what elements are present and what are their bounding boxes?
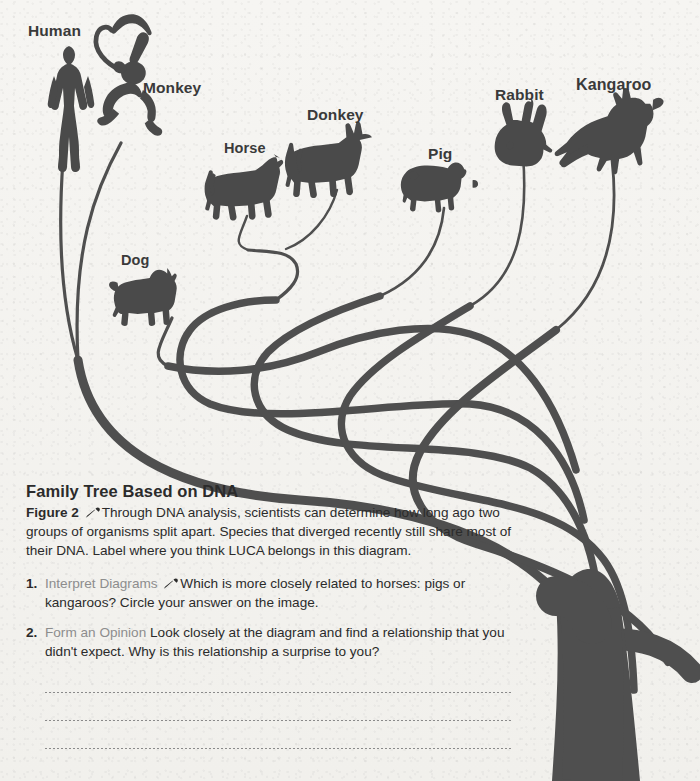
pencil-icon [85,504,100,515]
rabbit-silhouette [495,98,553,166]
taxon-label-human: Human [28,22,81,40]
question-skill-2: Form an Opinion [45,625,146,640]
taxon-label-dog: Dog [121,252,150,268]
taxon-label-pig: Pig [428,145,452,163]
taxon-label-kangaroo: Kangaroo [576,76,651,94]
horse-silhouette [205,154,284,221]
pig-silhouette [401,163,478,213]
branch-human [61,160,78,360]
dog-silhouette [109,268,177,326]
figure-caption: Figure 2 Through DNA analysis, scientist… [26,503,531,560]
answer-line[interactable] [45,748,511,749]
taxon-silhouettes [48,14,664,326]
answer-lines [45,692,511,776]
kangaroo-silhouette [555,88,664,174]
taxon-label-monkey: Monkey [143,79,201,97]
monkey-silhouette [96,14,162,135]
figure-text-panel: Family Tree Based on DNA Figure 2 Throug… [26,482,531,672]
branch-dog [158,318,172,366]
branch-rabbit [470,155,524,306]
question-item-2: 2. Form an Opinion Look closely at the d… [26,623,531,661]
branch-donkey [286,190,337,249]
pencil-icon [163,575,178,586]
taxon-label-donkey: Donkey [307,106,364,124]
question-number-1: 1. [26,574,37,593]
question-number-2: 2. [26,623,37,642]
figure-caption-lead: Figure 2 [26,505,79,520]
taxon-label-rabbit: Rabbit [495,86,544,104]
question-list: 1. Interpret Diagrams Which is more clos… [26,574,531,661]
branch-monkey [77,143,121,360]
answer-line[interactable] [45,720,511,721]
branch-horse [239,216,248,250]
question-skill-1: Interpret Diagrams [45,576,158,591]
taxon-label-horse: Horse [224,140,266,156]
branch-equids [248,250,298,300]
branch-kangaroo [556,160,614,330]
donkey-silhouette [285,122,372,198]
branch-pig [380,208,444,296]
human-silhouette [48,46,95,172]
figure-heading: Family Tree Based on DNA [26,482,531,501]
question-item-1: 1. Interpret Diagrams Which is more clos… [26,574,531,612]
answer-line[interactable] [45,692,511,693]
